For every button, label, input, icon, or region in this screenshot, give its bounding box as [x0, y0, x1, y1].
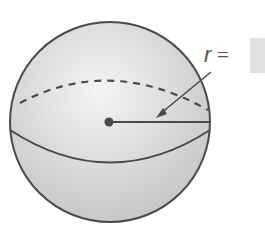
radius-label: r =: [204, 42, 229, 68]
equals-sign: =: [217, 42, 229, 67]
radius-answer-box[interactable]: [250, 38, 265, 73]
radius-variable: r: [204, 42, 211, 67]
sphere-diagram: [0, 0, 265, 238]
center-point: [105, 118, 114, 127]
